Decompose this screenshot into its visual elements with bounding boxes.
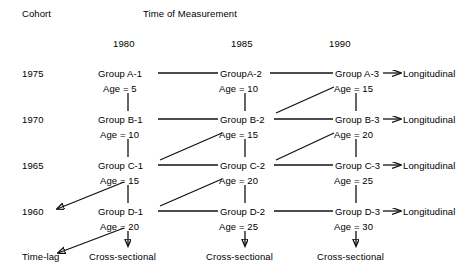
header-cohort: Cohort	[22, 8, 51, 19]
cell-d1-group: Group D-1	[98, 206, 143, 217]
column-header-1985: 1985	[231, 38, 253, 49]
cell-d1-age: Age = 20	[100, 221, 139, 232]
cohort-label-1965: 1965	[22, 160, 44, 171]
design-label-cross-sectional-2: Cross-sectional	[206, 251, 273, 262]
header-time-of-measurement: Time of Measurement	[143, 8, 237, 19]
cell-c1-age: Age = 15	[100, 175, 139, 186]
design-label-cross-sectional-3: Cross-sectional	[317, 251, 384, 262]
cell-c3-group: Group C-3	[335, 160, 380, 171]
cohort-sequential-design-diagram: Cohort Time of Measurement 1980 1985 199…	[0, 0, 465, 277]
cohort-label-1960: 1960	[22, 206, 44, 217]
diagonal-c1-to-b2age	[160, 133, 222, 160]
cell-c3-age: Age = 25	[334, 175, 373, 186]
arrow-c1age-to-1960	[57, 182, 124, 209]
cell-d2-age: Age = 25	[219, 221, 258, 232]
cell-d2-group: Group D-2	[220, 206, 265, 217]
cell-c2-group: Group C-2	[220, 160, 265, 171]
design-label-cross-sectional-1: Cross-sectional	[89, 251, 156, 262]
cell-b2-age: Age = 15	[219, 129, 258, 140]
cell-b3-age: Age = 20	[334, 129, 373, 140]
cell-b1-group: Group B-1	[98, 114, 143, 125]
cohort-label-1970: 1970	[22, 114, 44, 125]
design-label-longitudinal-d: Longitudinal	[403, 206, 455, 217]
cohort-label-1975: 1975	[22, 68, 44, 79]
diagonal-b2-to-a3age	[276, 87, 334, 113]
diagonal-c2-to-b3age	[276, 133, 334, 160]
cell-a1-age: Age = 5	[103, 83, 137, 94]
cell-a1-group: Group A-1	[98, 68, 142, 79]
design-label-longitudinal-b: Longitudinal	[403, 114, 455, 125]
cell-c2-age: Age = 20	[219, 175, 258, 186]
cell-a2-group: GroupA-2	[220, 68, 262, 79]
cell-b2-group: Group B-2	[220, 114, 265, 125]
cell-b1-age: Age = 10	[100, 129, 139, 140]
cell-a3-age: Age = 15	[334, 83, 373, 94]
cell-a2-age: Age = 10	[219, 83, 258, 94]
design-label-longitudinal-a: Longitudinal	[403, 68, 455, 79]
diagonal-d1-to-c2age	[160, 179, 222, 206]
cell-b3-group: Group B-3	[335, 114, 380, 125]
cell-d3-age: Age = 30	[334, 221, 373, 232]
design-label-longitudinal-c: Longitudinal	[403, 160, 455, 171]
design-label-time-lag: Time-lag	[22, 251, 59, 262]
cell-c1-group: Group C-1	[98, 160, 143, 171]
column-header-1980: 1980	[113, 38, 135, 49]
cell-d3-group: Group D-3	[335, 206, 380, 217]
cell-a3-group: Group A-3	[335, 68, 379, 79]
column-header-1990: 1990	[329, 38, 351, 49]
